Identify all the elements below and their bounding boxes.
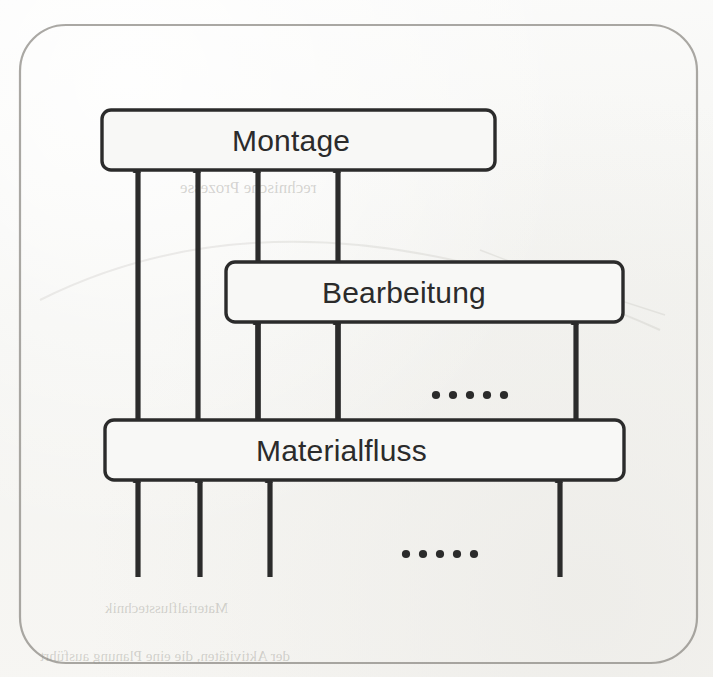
ellipsis-dot [432, 391, 440, 399]
ellipsis-dot [453, 550, 461, 558]
node-label-materialfluss: Materialfluss [256, 436, 427, 466]
ellipsis-dot [449, 391, 457, 399]
node-label-montage: Montage [232, 126, 350, 156]
ellipsis-dot [436, 550, 444, 558]
ellipsis-dot [402, 550, 410, 558]
ellipsis-dot [500, 391, 508, 399]
diagram-canvas [0, 0, 713, 677]
ellipsis-dot [419, 550, 427, 558]
figure-page: Interactions und Kommunikationsrechnisch… [0, 0, 713, 677]
ellipsis-ellipsis-bearbeitung-row [432, 391, 508, 399]
arrow-group [138, 172, 576, 577]
ellipsis-ellipsis-input-row [402, 550, 478, 558]
ellipsis-dot [483, 391, 491, 399]
ellipsis-dot [470, 550, 478, 558]
ellipsis-dot [466, 391, 474, 399]
node-label-bearbeitung: Bearbeitung [322, 278, 486, 308]
